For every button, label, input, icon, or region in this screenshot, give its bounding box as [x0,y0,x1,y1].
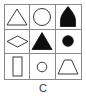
grid-cell-r2c2 [30,30,55,55]
grid-cell-r2c1 [5,30,30,55]
diamond-outline-shape [6,35,29,48]
triangle-outline-shape [6,7,28,27]
figure-label: C [0,80,86,96]
grid-cell-r1c1 [5,5,30,30]
grid-cell-r1c3 [56,5,81,30]
shape-grid [4,4,82,80]
grid-cell-r3c2 [30,54,55,79]
trapezoid-outline-shape [57,59,79,75]
grid-cell-r2c3 [56,30,81,55]
triangle-solid-shape [31,31,53,51]
rectangle-outline-shape [12,56,23,77]
grid-cell-r1c2 [30,5,55,30]
grid-cell-r3c1 [5,54,30,79]
small-circle-outline-shape [36,61,48,73]
grid-cell-r3c3 [56,54,81,79]
circle-outline-shape [32,7,52,27]
arch-solid-shape [59,6,77,27]
shape-matrix-figure: C [0,0,86,96]
circle-solid-shape [62,35,74,47]
